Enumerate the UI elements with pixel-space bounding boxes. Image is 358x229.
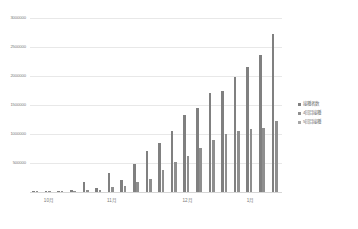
bar-group <box>194 18 207 192</box>
bar <box>234 77 237 192</box>
bar <box>86 190 89 192</box>
x-tick-label: 1月 <box>247 199 255 204</box>
bar <box>272 34 275 192</box>
bar <box>183 115 186 192</box>
bar <box>225 134 228 192</box>
gridline <box>30 192 282 193</box>
bar-group <box>43 18 56 192</box>
bar <box>70 190 73 192</box>
x-tick-label: 11月 <box>107 199 117 204</box>
bar <box>246 67 249 192</box>
legend-label: 接種者数 <box>303 102 319 106</box>
bar <box>158 143 161 192</box>
bar <box>124 186 127 192</box>
bar <box>162 170 165 192</box>
bar <box>48 191 51 192</box>
bar <box>262 128 265 192</box>
bar-group <box>244 18 257 192</box>
bar-group <box>232 18 245 192</box>
bar-group <box>143 18 156 192</box>
legend-item[interactable]: 4回目接種 <box>298 110 354 116</box>
bar <box>136 182 139 192</box>
bar <box>212 140 215 192</box>
bar-group <box>131 18 144 192</box>
bar <box>149 179 152 192</box>
bar-group <box>257 18 270 192</box>
bar-group <box>68 18 81 192</box>
bar <box>237 131 240 192</box>
bar <box>196 108 199 192</box>
bar-group <box>55 18 68 192</box>
y-tick-label: 1500000 <box>10 103 26 107</box>
bar <box>199 148 202 192</box>
bar-group <box>80 18 93 192</box>
bar <box>83 182 86 192</box>
bar <box>259 55 262 192</box>
legend-swatch-icon <box>298 121 301 124</box>
bar <box>95 188 98 192</box>
legend-label: 5回目接種 <box>303 120 321 124</box>
bar <box>171 131 174 192</box>
bar <box>275 121 278 192</box>
bar-group <box>219 18 232 192</box>
bar <box>146 151 149 192</box>
bar <box>133 164 136 192</box>
y-tick-label: 3000000 <box>10 16 26 20</box>
y-axis: 3000000250000020000001500000100000050000… <box>0 18 28 192</box>
bar-group <box>30 18 43 192</box>
legend-label: 4回目接種 <box>303 111 321 115</box>
bar <box>174 162 177 192</box>
bar <box>250 129 253 192</box>
bar <box>73 191 76 192</box>
plot-area <box>30 18 282 192</box>
legend-swatch-icon <box>298 112 301 115</box>
bar <box>187 156 190 192</box>
bar-group <box>93 18 106 192</box>
y-tick-label: 2000000 <box>10 74 26 78</box>
bar <box>32 191 35 192</box>
y-tick-label: 1000000 <box>10 132 26 136</box>
bar <box>36 191 39 192</box>
x-axis: 10月11月12月1月 <box>30 194 282 208</box>
y-tick-label: 2500000 <box>10 45 26 49</box>
bar-group <box>106 18 119 192</box>
bar <box>108 173 111 192</box>
bar <box>61 191 64 192</box>
bars-layer <box>30 18 282 192</box>
bar-group <box>169 18 182 192</box>
bar <box>221 91 224 192</box>
bar <box>99 190 102 192</box>
bar <box>45 191 48 192</box>
bar-group <box>181 18 194 192</box>
bar-group <box>269 18 282 192</box>
bar-chart: 3000000250000020000001500000100000050000… <box>0 0 358 229</box>
bar-group <box>118 18 131 192</box>
bar <box>57 191 60 192</box>
bar-group <box>156 18 169 192</box>
bar <box>111 187 114 192</box>
x-tick-label: 12月 <box>182 199 192 204</box>
legend-item[interactable]: 5回目接種 <box>298 119 354 125</box>
legend-item[interactable]: 接種者数 <box>298 101 354 107</box>
bar <box>120 180 123 192</box>
x-tick-label: 10月 <box>44 199 54 204</box>
bar <box>209 93 212 192</box>
legend-swatch-icon <box>298 103 301 106</box>
bar-group <box>206 18 219 192</box>
chart-legend: 接種者数4回目接種5回目接種 <box>298 101 354 129</box>
y-tick-label: 500000 <box>13 161 26 165</box>
